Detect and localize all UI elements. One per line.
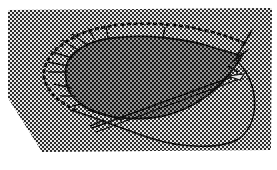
diagram-canvas [0, 0, 277, 170]
diagram-svg [0, 0, 277, 170]
